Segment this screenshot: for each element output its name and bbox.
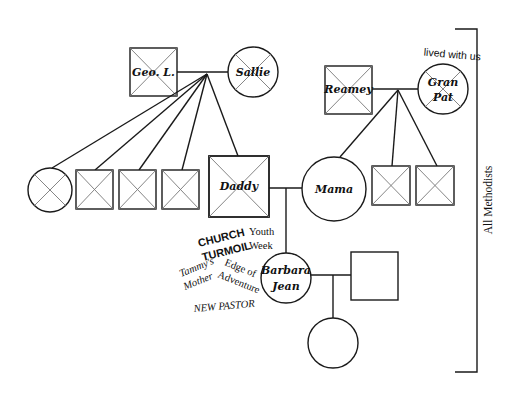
genogram-canvas: Geo. L. Sallie Rea [0, 0, 515, 399]
paternal-sibling-3 [119, 170, 156, 209]
person-daddy: Daddy [209, 156, 269, 217]
person-gran-pat: Gran Pat [418, 64, 468, 114]
maternal-sibling-1 [372, 166, 410, 205]
paternal-sibling-2 [76, 170, 113, 209]
person-reamey: Reamey [323, 66, 374, 114]
person-label-barbara-line2: Jean [270, 280, 299, 293]
person-label-gran-pat-line1: Gran [428, 76, 458, 89]
person-geo-l: Geo. L. [130, 48, 177, 96]
person-label-sallie: Sallie [236, 66, 271, 79]
person-label-reamey: Reamey [323, 83, 374, 96]
person-mama: Mama [302, 157, 366, 221]
person-sallie: Sallie [228, 47, 278, 97]
person-label-mama: Mama [314, 183, 353, 196]
annotation-all-methodists: All Methodists [482, 165, 494, 234]
annotation-week: Week [249, 240, 273, 251]
person-child [308, 318, 358, 368]
annotation-lived-with-us: lived with us [423, 46, 481, 63]
annotation-youth: Youth [249, 226, 275, 237]
person-spouse [351, 252, 398, 300]
maternal-sibling-2 [416, 166, 454, 205]
person-label-geo-l: Geo. L. [132, 66, 175, 79]
person-label-gran-pat-line2: Pat [432, 91, 453, 104]
person-label-daddy: Daddy [219, 180, 260, 193]
annotation-new-pastor: NEW PASTOR [192, 298, 255, 314]
person-barbara-jean: Barbara Jean [260, 253, 311, 303]
paternal-sibling-4 [162, 170, 199, 209]
paternal-sibling-1 [28, 168, 72, 212]
person-label-barbara-line1: Barbara [260, 264, 311, 277]
